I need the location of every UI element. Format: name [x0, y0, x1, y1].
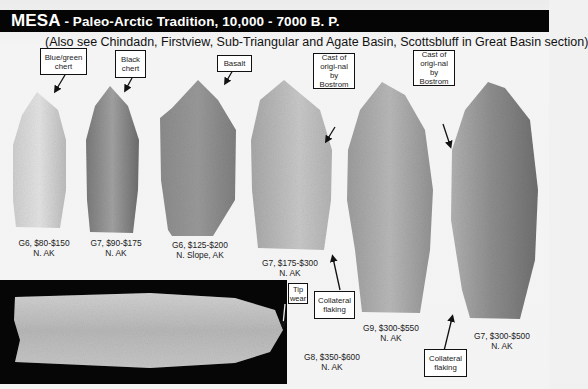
location: N. AK	[300, 362, 364, 372]
callout-cast-of-original-1: Cast of origi-nal by Bostrom	[313, 53, 355, 89]
grade-price: G6, $80-$150	[14, 238, 74, 248]
grade-price: G7, $300-$500	[470, 331, 534, 341]
grade-price: G6, $125-$200	[168, 240, 232, 250]
callout-tip-wear: Tip wear	[288, 283, 308, 304]
callout-basalt: Basalt	[217, 55, 252, 72]
grade-price: G7, $175-$300	[258, 258, 322, 268]
artifact-6	[451, 82, 538, 319]
caption-artifact-7: G8, $350-$600 N. AK	[300, 352, 364, 372]
caption-artifact-6: G7, $300-$500 N. AK	[470, 331, 534, 351]
location: N. Slope, AK	[168, 250, 232, 260]
location: N. AK	[86, 248, 146, 258]
caption-artifact-5: G9, $300-$550 N. AK	[359, 323, 423, 343]
grade-price: G7, $90-$175	[86, 238, 146, 248]
caption-artifact-3: G6, $125-$200 N. Slope, AK	[168, 240, 232, 260]
callout-collateral-flaking-2: Collateral flaking	[424, 349, 467, 377]
artifact-3	[160, 80, 236, 236]
grade-price: G8, $350-$600	[300, 352, 364, 362]
caption-artifact-2: G7, $90-$175 N. AK	[86, 238, 146, 258]
artifact-4	[251, 80, 332, 250]
grade-price: G9, $300-$550	[359, 323, 423, 333]
location: N. AK	[14, 248, 74, 258]
artifact-2	[86, 86, 139, 233]
callout-collateral-flaking-1: Collateral flaking	[314, 291, 355, 319]
location: N. AK	[258, 268, 322, 278]
callout-cast-of-original-2: Cast of origi-nal by Bostrom	[413, 50, 455, 86]
caption-artifact-4: G7, $175-$300 N. AK	[258, 258, 322, 278]
callout-black-chert: Black chert	[115, 50, 146, 78]
artifact-5	[347, 82, 433, 313]
callout-blue-green-chert: Blue/green chert	[40, 48, 87, 75]
artifact-1	[13, 92, 66, 228]
artifact-7	[14, 293, 283, 368]
location: N. AK	[359, 333, 423, 343]
location: N. AK	[470, 341, 534, 351]
caption-artifact-1: G6, $80-$150 N. AK	[14, 238, 74, 258]
